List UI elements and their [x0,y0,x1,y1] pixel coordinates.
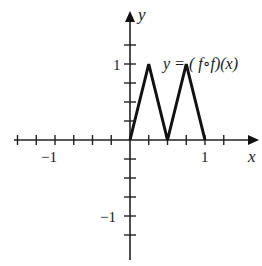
y-tick-label-neg1: −1 [100,209,116,225]
y-tick-label-1: 1 [113,57,121,73]
x-tick-label-1: 1 [201,149,209,165]
curve-label: y = ( f∘f)(x) [161,55,238,73]
x-tick-label-neg1: −1 [41,149,57,165]
x-axis-label: x [247,147,256,166]
chart-canvas: y x −1 1 1 −1 y = ( f∘f)(x) [0,0,262,266]
x-axis-arrow-icon [248,135,259,145]
curve-f-compose-f [130,64,205,140]
y-axis-label: y [136,5,146,24]
x-axis [14,135,259,145]
y-axis-arrow-icon [125,11,135,22]
